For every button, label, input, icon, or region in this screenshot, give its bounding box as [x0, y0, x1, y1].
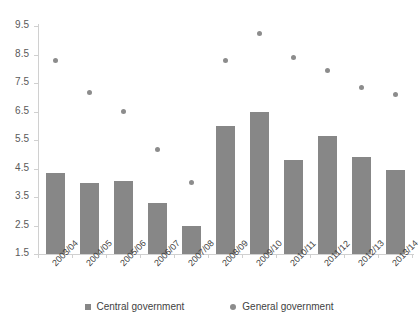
bar-central-government: [46, 173, 65, 254]
y-axis-tick-mark: [34, 140, 38, 141]
dot-general-government: [223, 58, 228, 63]
y-axis-tick-mark: [34, 226, 38, 227]
legend-item[interactable]: Central government: [85, 301, 185, 313]
x-axis-tick-mark: [140, 254, 141, 258]
square-marker-icon: [85, 304, 91, 310]
x-axis-tick-mark: [38, 254, 39, 258]
dot-general-government: [257, 31, 262, 36]
dot-general-government: [325, 68, 330, 73]
circle-marker-icon: [230, 304, 236, 310]
chart-legend: Central governmentGeneral government: [0, 301, 418, 313]
x-axis-tick-mark: [378, 254, 379, 258]
y-axis-tick-label: 3.5: [15, 190, 29, 201]
y-axis-tick-label: 2.5: [15, 219, 29, 230]
y-axis-tick-label: 6.5: [15, 105, 29, 116]
dot-general-government: [189, 180, 194, 185]
dot-general-government: [121, 109, 126, 114]
bar-central-government: [318, 136, 337, 254]
x-axis-tick-mark: [344, 254, 345, 258]
x-axis-tick-mark: [72, 254, 73, 258]
bar-central-government: [250, 112, 269, 255]
bar-central-government: [114, 181, 133, 254]
x-axis-tick-mark: [310, 254, 311, 258]
y-axis-tick-label: 1.5: [15, 247, 29, 258]
bar-central-government: [352, 157, 371, 254]
bar-central-government: [80, 183, 99, 254]
legend-item-label: Central government: [97, 301, 185, 313]
bar-central-government: [148, 203, 167, 254]
dot-general-government: [53, 58, 58, 63]
x-axis-tick-mark: [106, 254, 107, 258]
x-axis-tick-mark: [208, 254, 209, 258]
dot-general-government: [393, 92, 398, 97]
y-axis-tick-mark: [34, 197, 38, 198]
y-axis-tick-label: 7.5: [15, 76, 29, 87]
x-axis-tick-mark: [412, 254, 413, 258]
y-axis-tick-label: 5.5: [15, 133, 29, 144]
y-axis-tick-label: 9.5: [15, 19, 29, 30]
dot-general-government: [359, 85, 364, 90]
dot-general-government: [155, 147, 160, 152]
dot-general-government: [291, 55, 296, 60]
y-axis-tick-label: 4.5: [15, 162, 29, 173]
bar-central-government: [216, 126, 235, 254]
y-axis-tick-mark: [34, 83, 38, 84]
y-axis-tick-mark: [34, 26, 38, 27]
plot-area: [38, 26, 412, 254]
y-axis-tick-label: 8.5: [15, 48, 29, 59]
bar-central-government: [284, 160, 303, 254]
x-axis-tick-mark: [174, 254, 175, 258]
dot-general-government: [87, 90, 92, 95]
x-axis-tick-mark: [242, 254, 243, 258]
y-axis-tick-mark: [34, 169, 38, 170]
legend-item-label: General government: [242, 301, 333, 313]
bar-central-government: [386, 170, 405, 254]
y-axis-tick-mark: [34, 55, 38, 56]
x-axis-tick-mark: [276, 254, 277, 258]
legend-item[interactable]: General government: [230, 301, 333, 313]
y-axis-tick-mark: [34, 112, 38, 113]
